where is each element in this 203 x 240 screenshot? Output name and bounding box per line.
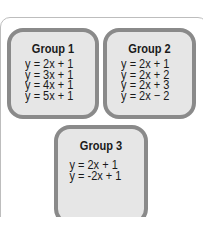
group-3-title: Group 3 xyxy=(64,139,137,153)
group-2-title: Group 2 xyxy=(113,42,185,56)
equation: y = -2x + 1 xyxy=(69,171,133,182)
equation: y = 5x + 1 xyxy=(25,91,85,102)
equation: y = 2x − 2 xyxy=(121,91,182,102)
group-2-box: Group 2 y = 2x + 1 y = 2x + 2 y = 2x + 3… xyxy=(103,28,196,119)
group-1-box: Group 1 y = 2x + 1 y = 3x + 1 y = 4x + 1… xyxy=(7,28,99,119)
group-1-title: Group 1 xyxy=(17,42,88,56)
group-3-equations: y = 2x + 1 y = -2x + 1 xyxy=(58,160,134,181)
group-3-box: Group 3 y = 2x + 1 y = -2x + 1 xyxy=(54,125,148,217)
group-1-equations: y = 2x + 1 y = 3x + 1 y = 4x + 1 y = 5x … xyxy=(11,59,85,101)
group-2-equations: y = 2x + 1 y = 2x + 2 y = 2x + 3 y = 2x … xyxy=(107,59,182,101)
